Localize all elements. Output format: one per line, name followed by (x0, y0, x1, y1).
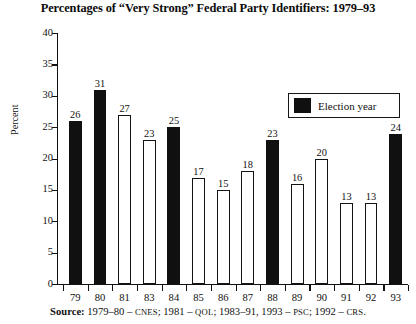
y-tick-label: 15 (43, 182, 53, 196)
bar-79: 26 (69, 121, 82, 284)
x-tick-label-85: 85 (193, 291, 204, 304)
x-tick-mark (162, 285, 163, 291)
bar-92: 13 (365, 203, 378, 285)
bar-value-label: 16 (292, 172, 302, 184)
bar-value-label: 18 (243, 159, 253, 171)
bar-87: 18 (241, 171, 254, 284)
bar-80: 31 (94, 90, 107, 285)
x-tick-label-86: 86 (218, 291, 229, 304)
bar-88: 23 (266, 140, 279, 284)
x-tick-label-80: 80 (95, 291, 106, 304)
x-tick-label-92: 92 (366, 291, 377, 304)
plot-area: 0510152025303540 26312723251715182316201… (57, 33, 408, 285)
x-tick-mark (309, 285, 310, 291)
x-tick-mark (260, 285, 261, 291)
x-tick-mark (186, 285, 187, 291)
legend-swatch-election-year (294, 98, 311, 113)
bar-86: 15 (217, 190, 230, 284)
x-tick-label-83: 83 (144, 291, 155, 304)
bar-value-label: 23 (144, 128, 154, 140)
y-tick-label: 0 (48, 277, 53, 291)
x-tick-mark (211, 285, 212, 291)
bar-value-label: 31 (95, 78, 105, 90)
legend: Election year (288, 93, 400, 118)
source-text-part: 1979–80 – (87, 306, 135, 317)
source-text-part: PSC (293, 307, 309, 317)
bar-chart-figure: Percentages of “Very Strong” Federal Par… (0, 0, 416, 324)
source-text-part: CRS (346, 307, 363, 317)
bar-value-label: 23 (267, 128, 277, 140)
x-tick-mark (137, 285, 138, 291)
bar-85: 17 (192, 178, 205, 285)
bar-value-label: 17 (193, 166, 203, 178)
x-tick-mark (359, 285, 360, 291)
y-tick-label: 40 (43, 26, 53, 40)
bar-83: 23 (143, 140, 156, 284)
bar-value-label: 26 (70, 109, 80, 121)
y-tick-label: 10 (43, 214, 53, 228)
source-label: Source: (50, 306, 85, 317)
y-tick-label: 20 (43, 151, 53, 165)
source-text-part: ; 1983–91, 1993 – (213, 306, 293, 317)
page-title: Percentages of “Very Strong” Federal Par… (0, 1, 416, 16)
source-text-part: ; 1992 – (309, 306, 346, 317)
y-tick-label: 30 (43, 88, 53, 102)
x-axis-line (57, 284, 408, 285)
bar-89: 16 (291, 184, 304, 284)
x-tick-mark (112, 285, 113, 291)
x-tick-label-93: 93 (390, 291, 401, 304)
x-tick-mark (285, 285, 286, 291)
x-tick-label-91: 91 (341, 291, 352, 304)
bar-value-label: 13 (341, 191, 351, 203)
x-tick-label-84: 84 (169, 291, 180, 304)
x-tick-mark (383, 285, 384, 291)
bar-value-label: 27 (119, 103, 129, 115)
bar-93: 24 (389, 134, 402, 285)
source-text-part: ; 1981 – (158, 306, 195, 317)
x-tick-mark (88, 285, 89, 291)
x-tick-label-81: 81 (119, 291, 130, 304)
bar-81: 27 (118, 115, 131, 284)
bar-value-label: 15 (218, 178, 228, 190)
y-tick-label: 5 (48, 245, 53, 259)
x-tick-label-89: 89 (292, 291, 303, 304)
x-tick-label-79: 79 (70, 291, 81, 304)
bar-value-label: 25 (169, 115, 179, 127)
x-tick-label-90: 90 (316, 291, 327, 304)
x-tick-mark (408, 285, 409, 291)
x-tick-label-88: 88 (267, 291, 278, 304)
x-tick-label-87: 87 (243, 291, 254, 304)
bar-90: 20 (315, 159, 328, 285)
x-tick-mark (63, 285, 64, 291)
y-tick-label: 35 (43, 57, 53, 71)
bar-84: 25 (167, 127, 180, 284)
x-tick-mark (236, 285, 237, 291)
source-text: 1979–80 – CNES; 1981 – QOL; 1983–91, 199… (85, 306, 366, 317)
source-text-part: . (363, 306, 366, 317)
y-axis-title: Percent (9, 104, 20, 135)
source-text-part: CNES (135, 307, 158, 317)
source-text-part: QOL (195, 307, 213, 317)
y-tick-label: 25 (43, 120, 53, 134)
bar-91: 13 (340, 203, 353, 285)
bar-value-label: 24 (390, 122, 400, 134)
bar-value-label: 13 (366, 191, 376, 203)
source-note: Source: 1979–80 – CNES; 1981 – QOL; 1983… (0, 305, 416, 319)
legend-label-election-year: Election year (318, 100, 376, 112)
bar-value-label: 20 (317, 147, 327, 159)
x-tick-mark (334, 285, 335, 291)
